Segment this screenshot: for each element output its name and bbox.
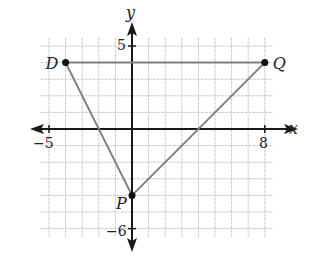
point-D: [62, 59, 69, 66]
coordinate-plane: DQP x y −5 8 5 −6: [0, 0, 310, 260]
y-axis-label: y: [125, 3, 136, 22]
point-P: [129, 192, 136, 199]
x-axis-label: x: [289, 119, 298, 138]
y-tick-label-min: −6: [106, 223, 127, 239]
point-label-Q: Q: [273, 54, 286, 73]
y-tick-label-max: 5: [117, 37, 126, 53]
point-Q: [261, 59, 268, 66]
point-label-P: P: [115, 194, 127, 213]
x-tick-label-max: 8: [259, 135, 268, 151]
grid-lines: [41, 38, 273, 237]
axes: [30, 22, 298, 252]
x-tick-label-min: −5: [33, 135, 54, 151]
point-label-D: D: [45, 54, 59, 73]
